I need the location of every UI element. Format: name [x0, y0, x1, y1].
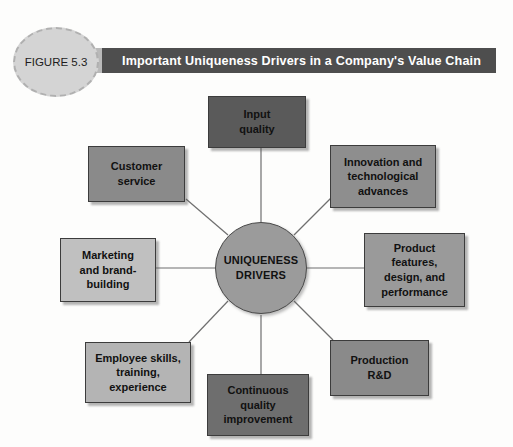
driver-node-label: Inputquality: [239, 107, 274, 136]
spoke-line-production-rd: [294, 301, 333, 340]
hub-label-line-2: DRIVERS: [236, 269, 286, 281]
figure-number-label: FIGURE 5.3: [25, 56, 88, 68]
driver-node-product-features-design-performance: Productfeatures,design, andperformance: [364, 233, 465, 307]
hub-uniqueness-drivers: UNIQUENESS DRIVERS: [215, 222, 307, 314]
spoke-line-innovation-technological-advances: [294, 196, 333, 235]
driver-node-marketing-and-brand-building: Marketingand brand-building: [60, 238, 156, 302]
driver-node-production-rd: ProductionR&D: [330, 340, 429, 396]
driver-node-label: ProductionR&D: [350, 353, 408, 382]
figure-number-badge: FIGURE 5.3: [13, 27, 99, 97]
driver-node-customer-service: Customerservice: [88, 146, 185, 202]
hub-label: UNIQUENESS DRIVERS: [224, 253, 299, 283]
driver-node-label: Marketingand brand-building: [80, 248, 137, 292]
driver-node-innovation-technological-advances: Innovation andtechnologicaladvances: [330, 145, 436, 208]
driver-node-employee-skills-training-experience: Employee skills,training,experience: [85, 342, 191, 403]
figure-container: Important Uniqueness Drivers in a Compan…: [0, 0, 513, 447]
spoke-line-customer-service: [186, 199, 228, 235]
driver-node-input-quality: Inputquality: [208, 96, 306, 148]
driver-node-label: Customerservice: [111, 159, 162, 188]
driver-node-label: Continuousqualityimprovement: [223, 383, 292, 427]
spoke-line-employee-skills-training-experience: [189, 301, 228, 342]
driver-node-label: Employee skills,training,experience: [95, 351, 181, 395]
hub-label-line-1: UNIQUENESS: [224, 254, 299, 266]
driver-node-label: Productfeatures,design, andperformance: [381, 241, 448, 300]
driver-node-continuous-quality-improvement: Continuousqualityimprovement: [207, 374, 309, 436]
driver-node-label: Innovation andtechnologicaladvances: [344, 155, 422, 199]
